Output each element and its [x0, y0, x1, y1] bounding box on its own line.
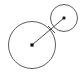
small-circle-center-dot	[63, 17, 66, 20]
large-circle-center-dot	[30, 43, 33, 46]
canvas-background	[0, 0, 83, 77]
two-circles-diagram	[0, 0, 83, 77]
figure-canvas	[0, 0, 83, 77]
